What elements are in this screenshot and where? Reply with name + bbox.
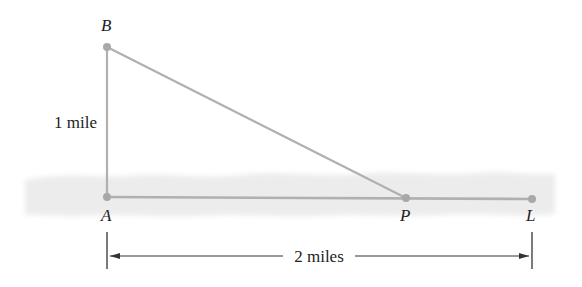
point-L xyxy=(528,195,536,203)
label-L: L xyxy=(525,206,535,225)
label-A: A xyxy=(100,206,112,225)
vertical-distance-label: 1 mile xyxy=(54,113,97,132)
horizontal-distance-label: 2 miles xyxy=(294,247,344,266)
point-B xyxy=(103,43,111,51)
point-P xyxy=(402,194,410,202)
label-B: B xyxy=(101,16,112,35)
geometry-diagram: B A P L 1 mile 2 miles xyxy=(0,0,582,287)
label-P: P xyxy=(399,206,410,225)
point-A xyxy=(103,193,111,201)
